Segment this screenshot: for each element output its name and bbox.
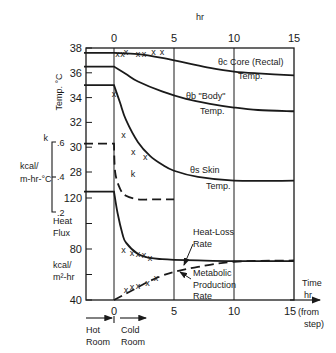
skin-observations-marker: x [121,130,126,140]
physiology-chart: 005510101515(fromstep)hrTimehr3836343230… [0,0,336,353]
temp-tick-38: 38 [70,42,82,54]
metabolic-observations-marker: x [145,278,150,288]
core-observations-marker: x [136,49,141,59]
heat-loss-rate-line [84,192,294,262]
x-suffix-step: step) [304,319,324,329]
x-tick-bottom-5: 5 [171,305,177,317]
metabolic-label: Metabolic [193,268,232,278]
flux-tick-80: 80 [70,243,82,255]
cold-room-label: Cold [121,325,140,335]
x-tick-top-10: 10 [228,32,240,44]
heat-loss-label-2: Rate [193,239,212,249]
flux-unit-line2: m²-hr [53,272,75,282]
k-tick-.6: .6 [57,138,65,148]
core-temp-label: θc Core (Rectal) [218,57,284,67]
flux-label-line2: Flux [53,228,71,238]
x-tick-bottom-10: 10 [228,305,240,317]
temp-tick-34: 34 [70,92,82,104]
skin-temp-label-2: Temp. [206,181,231,191]
k-unit-line1: kcal/ [20,161,39,171]
hot-room-label: Hot [86,325,101,335]
k-tick-.4: .4 [57,172,65,182]
temp-tick-28: 28 [70,166,82,178]
temp-tick-30: 30 [70,141,82,153]
flux-tick-120: 120 [64,192,82,204]
metabolic-observations-marker: x [130,282,135,292]
heat-loss-observations-marker: x [142,250,147,260]
time-label: Time [302,278,322,288]
heat-loss-observations-marker: x [130,248,135,258]
core-observations-marker: x [160,47,165,57]
temp-tick-32: 32 [70,116,82,128]
skin-observations-marker: x [143,152,148,162]
core-temp-label-2: Temp. [238,71,263,81]
core-observations-marker: x [142,49,147,59]
flux-label-line1: Heat [53,216,73,226]
hot-room-label-2: Room [86,337,110,347]
metabolic-observations-marker: x [154,273,159,283]
heat-loss-pointer [184,244,193,265]
x-tick-bottom-15: 15 [284,305,296,317]
skin-observations-marker: x [112,89,117,99]
heat-loss-observations-marker: x [148,253,153,263]
core-observations-marker: x [151,47,156,57]
skin-temp-label: θs Skin [190,165,220,175]
metabolic-pointer [180,272,191,279]
x-axis-top-label: hr [196,12,204,22]
k-axis-symbol: k [44,133,49,143]
core-observations-marker: x [124,47,129,57]
temp-tick-36: 36 [70,67,82,79]
heat-loss-observations-marker: x [121,245,126,255]
cold-room-label-2: Room [121,337,145,347]
flux-tick-40: 40 [70,294,82,306]
k-series-label: k [131,169,136,179]
metabolic-observations-marker: x [136,281,141,291]
heat-loss-label: Heat-Loss [193,227,235,237]
metabolic-label-2: Production [193,280,236,290]
time-unit-label: hr [304,290,312,300]
heat-loss-observations-marker: x [136,249,141,259]
body-temp-label: θb "Body" [186,91,225,101]
skin-observations-marker: x [131,147,136,157]
metabolic-label-3: Rate [193,291,212,301]
metabolic-observations-marker: x [124,285,129,295]
x-tick-top-5: 5 [171,32,177,44]
body-temp-label-2: Temp. [200,106,225,116]
x-suffix-from: (from [298,307,319,317]
temp-axis-label: Temp. °C [54,73,64,111]
k-unit-line2: m-hr-°C [20,174,52,184]
x-tick-top-15: 15 [288,32,300,44]
x-tick-top-0: 0 [111,32,117,44]
flux-unit-line1: kcal/ [53,260,72,270]
x-tick-bottom-0: 0 [111,305,117,317]
